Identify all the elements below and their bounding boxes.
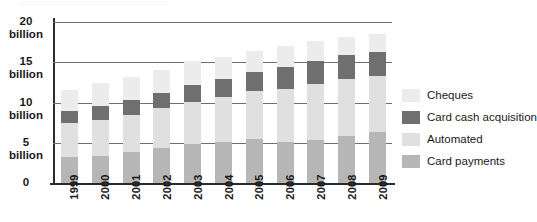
bar-2003[interactable]	[184, 61, 201, 183]
x-tick-2001: 2001	[123, 185, 140, 222]
y-tick-5: 5 billion	[2, 136, 50, 161]
bar-segment-card-cash-acquisition-2004	[215, 79, 232, 97]
bar-2002[interactable]	[153, 70, 170, 184]
y-tick-5-unit: billion	[2, 149, 50, 162]
bar-segment-card-cash-acquisition-1999	[61, 111, 78, 124]
x-tick-label-2004: 2004	[224, 174, 235, 199]
x-tick-label-2006: 2006	[285, 174, 296, 199]
bar-segment-cheques-2004	[215, 57, 232, 80]
legend-item-cheques[interactable]: Cheques	[402, 86, 530, 105]
bar-segment-cheques-2006	[277, 46, 294, 67]
bar-segment-card-cash-acquisition-2007	[307, 61, 324, 84]
x-tick-2004: 2004	[215, 185, 232, 222]
bar-segment-automated-2007	[307, 84, 324, 140]
bar-2009[interactable]	[369, 34, 386, 183]
plot-area	[53, 22, 392, 183]
bar-segment-automated-2001	[123, 115, 140, 151]
y-tick-0: 0	[2, 176, 50, 189]
y-tick-10-unit: billion	[2, 109, 50, 122]
x-tick-label-2005: 2005	[254, 174, 265, 199]
x-tick-2000: 2000	[92, 185, 109, 222]
bar-segment-cheques-2009	[369, 34, 386, 52]
y-tick-20: 20 billion	[2, 15, 50, 40]
x-tick-2007: 2007	[307, 185, 324, 222]
bar-segment-card-cash-acquisition-2001	[123, 100, 140, 115]
y-tick-10: 10 billion	[2, 96, 50, 121]
x-tick-2008: 2008	[338, 185, 355, 222]
bar-segment-card-cash-acquisition-2000	[92, 106, 109, 120]
bar-segment-automated-2005	[246, 91, 263, 138]
legend-swatch-card-cash-acquisition	[402, 111, 420, 124]
legend-label-card-cash-acquisition: Card cash acquisition	[427, 111, 537, 124]
legend-item-card-payments[interactable]: Card payments	[402, 152, 530, 171]
bar-segment-automated-2004	[215, 97, 232, 142]
y-tick-15-value: 15	[2, 55, 50, 68]
y-tick-15-unit: billion	[2, 68, 50, 81]
x-tick-2009: 2009	[369, 185, 386, 222]
x-tick-label-2007: 2007	[316, 174, 327, 199]
legend-swatch-automated	[402, 133, 420, 146]
x-tick-2005: 2005	[246, 185, 263, 222]
bar-segment-card-cash-acquisition-2006	[277, 67, 294, 89]
x-tick-label-1999: 1999	[69, 174, 80, 199]
bar-segment-automated-2000	[92, 120, 109, 155]
legend-label-automated: Automated	[427, 133, 483, 146]
x-axis-labels: 1999200020012002200320042005200620072008…	[53, 185, 392, 222]
bar-segment-card-cash-acquisition-2008	[338, 55, 355, 79]
bar-2004[interactable]	[215, 57, 232, 183]
bar-1999[interactable]	[61, 90, 78, 183]
bar-segment-cheques-2008	[338, 37, 355, 56]
y-tick-0-value: 0	[2, 176, 50, 189]
bar-2005[interactable]	[246, 51, 263, 183]
y-tick-20-value: 20	[2, 15, 50, 28]
bar-segment-cheques-2002	[153, 70, 170, 93]
bar-segment-automated-2008	[338, 79, 355, 135]
y-tick-15: 15 billion	[2, 55, 50, 80]
y-tick-5-value: 5	[2, 136, 50, 149]
legend-swatch-cheques	[402, 89, 420, 102]
bar-segment-cheques-2000	[92, 83, 109, 106]
bar-2007[interactable]	[307, 41, 324, 183]
x-tick-label-2009: 2009	[378, 174, 389, 199]
bar-segment-automated-2006	[277, 89, 294, 142]
x-tick-2003: 2003	[184, 185, 201, 222]
bar-2000[interactable]	[92, 83, 109, 183]
x-tick-1999: 1999	[61, 185, 78, 222]
bar-2001[interactable]	[123, 77, 140, 183]
bar-segment-card-cash-acquisition-2005	[246, 72, 263, 91]
x-tick-label-2008: 2008	[347, 174, 358, 199]
bar-series-group	[53, 22, 392, 183]
bar-segment-cheques-2005	[246, 51, 263, 72]
legend-item-card-cash-acquisition[interactable]: Card cash acquisition	[402, 108, 530, 127]
y-tick-20-unit: billion	[2, 28, 50, 41]
chart-legend: ChequesCard cash acquisitionAutomatedCar…	[402, 86, 530, 174]
x-tick-label-2003: 2003	[193, 174, 204, 199]
x-tick-label-2001: 2001	[131, 174, 142, 199]
bar-2006[interactable]	[277, 46, 294, 183]
bar-2008[interactable]	[338, 37, 355, 184]
legend-item-automated[interactable]: Automated	[402, 130, 530, 149]
x-tick-label-2002: 2002	[162, 174, 173, 199]
y-axis-labels: 20 billion 15 billion 10 billion 5 billi…	[0, 0, 50, 222]
bar-segment-automated-2003	[184, 102, 201, 145]
legend-swatch-card-payments	[402, 155, 420, 168]
x-tick-2002: 2002	[153, 185, 170, 222]
bar-segment-card-cash-acquisition-2009	[369, 52, 386, 76]
bar-segment-cheques-2003	[184, 61, 201, 84]
bar-segment-automated-2009	[369, 76, 386, 132]
y-tick-10-value: 10	[2, 96, 50, 109]
bar-segment-cheques-1999	[61, 90, 78, 111]
bar-segment-automated-2002	[153, 108, 170, 147]
legend-label-cheques: Cheques	[427, 89, 473, 102]
x-tick-2006: 2006	[277, 185, 294, 222]
bar-segment-cheques-2001	[123, 77, 140, 100]
bar-segment-cheques-2007	[307, 41, 324, 61]
legend-label-card-payments: Card payments	[427, 155, 505, 168]
bar-segment-automated-1999	[61, 123, 78, 157]
bar-segment-card-cash-acquisition-2002	[153, 93, 170, 108]
x-tick-label-2000: 2000	[100, 174, 111, 199]
bar-segment-card-cash-acquisition-2003	[184, 85, 201, 102]
